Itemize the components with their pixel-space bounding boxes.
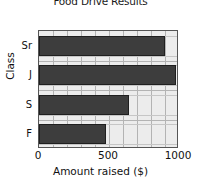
y-axis-tick-labels: Sr J S F [0,30,36,148]
y-tick-label: Sr [22,39,32,50]
bar [39,36,165,56]
bar-series [39,31,177,147]
bar [39,124,106,144]
y-tick-label: S [26,98,32,109]
bar-chart: Food Drive Results Class Sr J S F 0 500 … [0,0,201,186]
bar [39,95,129,115]
x-tick-label: 1000 [165,149,192,161]
plot-area [38,30,178,148]
y-tick-label: J [29,69,32,80]
bar [39,65,176,85]
x-axis-title: Amount raised ($) [0,165,201,177]
x-axis-tick-labels: 0 500 1000 [38,149,178,163]
y-tick-label: F [26,128,32,139]
x-tick-label: 500 [98,149,118,161]
x-tick-label: 0 [35,149,42,161]
chart-title: Food Drive Results [0,0,201,7]
